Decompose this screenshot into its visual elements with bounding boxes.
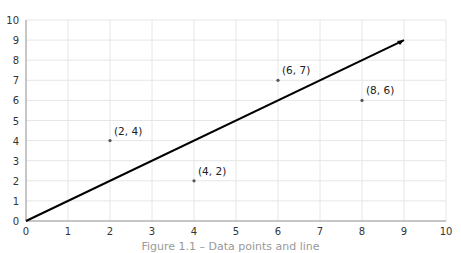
x-tick-label: 3 (149, 226, 155, 237)
x-tick-label: 7 (317, 226, 323, 237)
data-point (276, 79, 279, 82)
x-tick-label: 10 (440, 226, 453, 237)
y-tick-label: 9 (13, 35, 19, 46)
y-tick-label: 1 (13, 196, 19, 207)
x-tick-label: 8 (359, 226, 365, 237)
data-point (192, 179, 195, 182)
y-tick-label: 0 (13, 216, 19, 227)
x-tick-label: 4 (191, 226, 197, 237)
y-tick-label: 4 (13, 136, 19, 147)
y-tick-label: 8 (13, 55, 19, 66)
data-point-label: (4, 2) (198, 165, 226, 177)
fit-line (26, 40, 404, 221)
x-tick-label: 0 (23, 226, 29, 237)
y-tick-label: 7 (13, 75, 19, 86)
data-point (108, 139, 111, 142)
data-point-label: (2, 4) (114, 125, 142, 137)
data-point (360, 99, 363, 102)
y-tick-label: 6 (13, 95, 19, 106)
x-tick-label: 1 (65, 226, 71, 237)
x-tick-label: 2 (107, 226, 113, 237)
figure-caption: Figure 1.1 – Data points and line (0, 240, 461, 253)
data-point-label: (8, 6) (366, 84, 394, 96)
y-tick-label: 10 (6, 15, 19, 26)
y-tick-label: 5 (13, 116, 19, 127)
x-tick-label: 9 (401, 226, 407, 237)
data-point-label: (6, 7) (282, 64, 310, 76)
x-tick-label: 5 (233, 226, 239, 237)
y-tick-label: 3 (13, 156, 19, 167)
x-tick-label: 6 (275, 226, 281, 237)
y-tick-label: 2 (13, 176, 19, 187)
